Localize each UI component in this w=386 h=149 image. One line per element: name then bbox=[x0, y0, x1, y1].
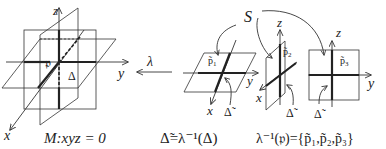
plane-1-y-label: y bbox=[245, 73, 253, 88]
point-p-label: 𝔭 bbox=[45, 55, 51, 70]
variety-M: z y x 𝔭 Δ bbox=[2, 3, 128, 143]
plane-1-delta: Δ̃ bbox=[224, 105, 236, 119]
plane-3-delta: Δ̃ bbox=[314, 107, 326, 121]
plane-2-z-label: z bbox=[276, 15, 282, 30]
plane-2-point: p̃2 bbox=[283, 46, 292, 59]
S-label: S bbox=[244, 8, 252, 25]
delta-label: Δ bbox=[68, 69, 76, 83]
caption-delta-tilde: Δ̃=λ⁻¹(Δ) bbox=[160, 130, 217, 147]
S-arrow-2 bbox=[257, 18, 272, 58]
normalization-diagram: z y x 𝔭 Δ M:xyz = 0 λ S p̃1 y x Δ̃ z bbox=[0, 0, 386, 149]
plane-1-delta-arrow bbox=[225, 78, 231, 105]
plane-3: z p̃3 y Δ̃ bbox=[308, 25, 375, 121]
plane-2-delta: Δ̃ bbox=[286, 106, 298, 120]
set-S: S bbox=[217, 8, 324, 58]
plane-1: p̃1 y x Δ̃ bbox=[183, 40, 258, 119]
plane-1-x-label: x bbox=[206, 103, 213, 118]
x-label: x bbox=[3, 128, 11, 143]
plane-2-x-label: x bbox=[255, 90, 262, 105]
caption-preimage: λ⁻¹(𝔭)={p̃₁,p̃₂,p̃₃} bbox=[256, 131, 354, 147]
plane-2: z p̃2 x Δ̃ bbox=[255, 15, 298, 120]
plane-1-point: p̃1 bbox=[208, 55, 217, 68]
lambda-label: λ bbox=[146, 54, 153, 69]
plane-3-delta-arrow bbox=[319, 86, 327, 104]
y-label: y bbox=[116, 66, 125, 81]
lambda-map: λ bbox=[137, 54, 172, 72]
S-arrow-3 bbox=[262, 11, 324, 55]
z-label: z bbox=[52, 3, 58, 18]
plane-2-delta-arrow bbox=[287, 85, 293, 105]
S-arrow-1 bbox=[217, 25, 236, 55]
caption-M: M:xyz = 0 bbox=[43, 130, 106, 146]
plane-3-point: p̃3 bbox=[340, 55, 349, 68]
plane-3-y-label: y bbox=[366, 76, 375, 91]
plane-3-z-label: z bbox=[335, 25, 341, 40]
